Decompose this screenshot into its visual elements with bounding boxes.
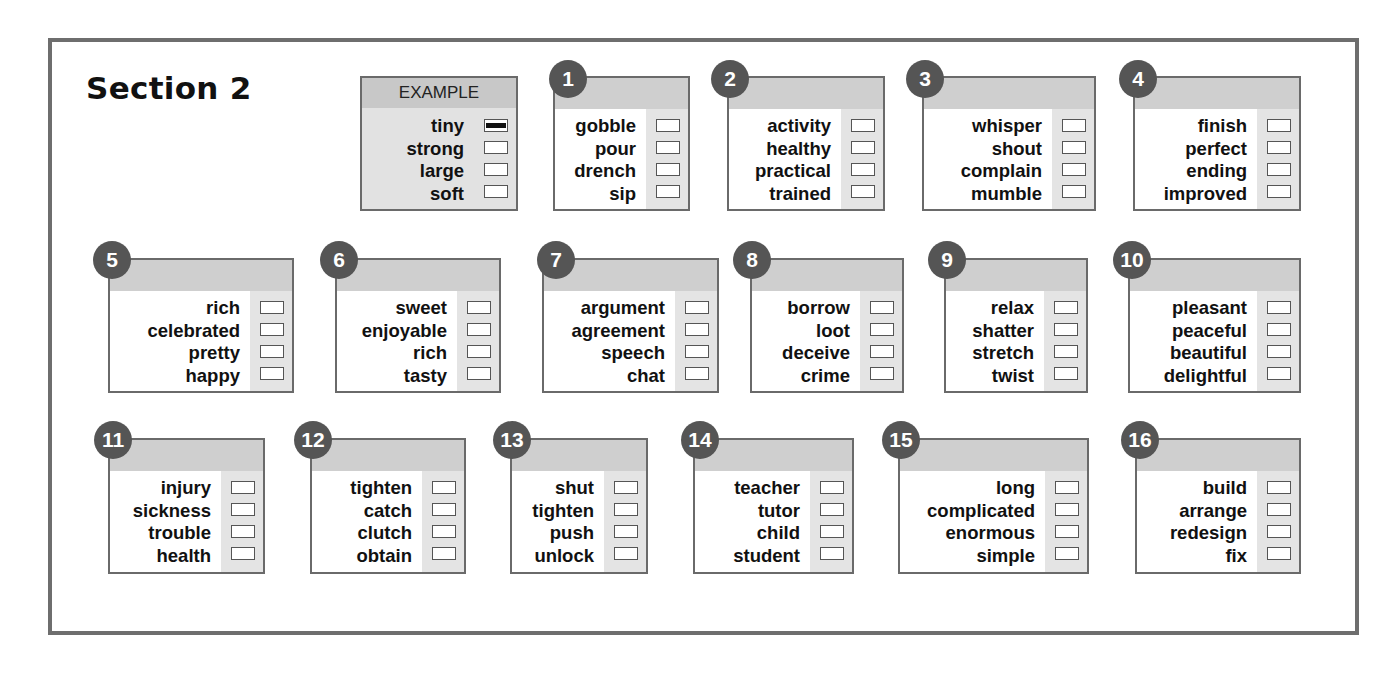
question-box: pleasantpeacefulbeautifuldelightful	[1128, 258, 1301, 393]
answer-checkbox[interactable]	[820, 525, 844, 538]
option-word: peaceful	[1164, 320, 1247, 343]
answer-checkbox[interactable]	[260, 345, 284, 358]
option-word: gobble	[574, 115, 636, 138]
option-word: build	[1170, 477, 1247, 500]
question-number-badge: 9	[928, 241, 966, 279]
answer-checkbox[interactable]	[1267, 547, 1291, 560]
answer-checkbox[interactable]	[1054, 323, 1078, 336]
answer-checkbox[interactable]	[870, 367, 894, 380]
question-number-badge: 15	[882, 421, 920, 459]
answer-checkbox[interactable]	[1267, 301, 1291, 314]
option-word: pretty	[147, 342, 240, 365]
option-word: rich	[362, 342, 447, 365]
answer-checkbox[interactable]	[614, 547, 638, 560]
question-number-badge: 13	[493, 421, 531, 459]
answer-checkbox[interactable]	[1267, 185, 1291, 198]
answer-checkbox[interactable]	[260, 323, 284, 336]
answer-checkbox[interactable]	[851, 185, 875, 198]
answer-checkbox[interactable]	[467, 367, 491, 380]
answer-checkbox[interactable]	[1267, 163, 1291, 176]
option-word: happy	[147, 365, 240, 388]
answer-checkbox[interactable]	[1267, 119, 1291, 132]
option-word: sweet	[362, 297, 447, 320]
answer-checkbox[interactable]	[656, 163, 680, 176]
answer-checkbox[interactable]	[1054, 301, 1078, 314]
answer-checkbox[interactable]	[656, 185, 680, 198]
option-word: tighten	[532, 500, 594, 523]
answer-checkbox[interactable]	[260, 367, 284, 380]
answer-checkbox[interactable]	[1054, 345, 1078, 358]
question-number-badge: 2	[711, 60, 749, 98]
answer-checkbox[interactable]	[1267, 503, 1291, 516]
answer-checkbox[interactable]	[1267, 345, 1291, 358]
question-box: teachertutorchildstudent	[693, 438, 854, 574]
option-word: mumble	[961, 183, 1042, 206]
example-checkbox	[484, 185, 508, 198]
option-word: healthy	[755, 138, 831, 161]
question-box: longcomplicatedenormoussimple	[898, 438, 1089, 574]
answer-checkbox[interactable]	[614, 525, 638, 538]
answer-checkbox[interactable]	[467, 323, 491, 336]
answer-checkbox[interactable]	[231, 503, 255, 516]
answer-checkbox[interactable]	[467, 345, 491, 358]
answer-checkbox[interactable]	[685, 323, 709, 336]
answer-checkbox[interactable]	[685, 301, 709, 314]
option-word: argument	[571, 297, 665, 320]
question-header	[337, 260, 499, 291]
example-word: tiny	[406, 115, 464, 138]
answer-checkbox[interactable]	[467, 301, 491, 314]
answer-checkbox[interactable]	[614, 481, 638, 494]
option-word: improved	[1164, 183, 1247, 206]
answer-checkbox[interactable]	[432, 503, 456, 516]
answer-checkbox[interactable]	[870, 301, 894, 314]
option-word: whisper	[961, 115, 1042, 138]
answer-checkbox[interactable]	[1062, 185, 1086, 198]
answer-checkbox[interactable]	[1062, 119, 1086, 132]
answer-checkbox[interactable]	[851, 141, 875, 154]
option-word: shatter	[972, 320, 1034, 343]
option-word: perfect	[1164, 138, 1247, 161]
answer-checkbox[interactable]	[685, 345, 709, 358]
answer-checkbox[interactable]	[656, 141, 680, 154]
answer-checkbox[interactable]	[820, 547, 844, 560]
answer-checkbox[interactable]	[870, 345, 894, 358]
answer-checkbox[interactable]	[1062, 163, 1086, 176]
example-header: EXAMPLE	[362, 78, 516, 108]
answer-checkbox[interactable]	[820, 503, 844, 516]
answer-checkbox[interactable]	[870, 323, 894, 336]
answer-checkbox[interactable]	[1267, 323, 1291, 336]
answer-checkbox[interactable]	[656, 119, 680, 132]
question-number-badge: 11	[94, 421, 132, 459]
answer-checkbox[interactable]	[820, 481, 844, 494]
answer-checkbox[interactable]	[231, 481, 255, 494]
answer-checkbox[interactable]	[685, 367, 709, 380]
answer-checkbox[interactable]	[1054, 367, 1078, 380]
answer-checkbox[interactable]	[231, 525, 255, 538]
question-header	[1135, 78, 1299, 109]
answer-checkbox[interactable]	[1267, 367, 1291, 380]
question-number-badge: 8	[733, 241, 771, 279]
option-word: sickness	[133, 500, 211, 523]
answer-checkbox[interactable]	[1062, 141, 1086, 154]
question-number-badge: 7	[537, 241, 575, 279]
answer-checkbox[interactable]	[432, 547, 456, 560]
answer-checkbox[interactable]	[432, 481, 456, 494]
answer-checkbox[interactable]	[1055, 525, 1079, 538]
answer-checkbox[interactable]	[614, 503, 638, 516]
answer-checkbox[interactable]	[851, 119, 875, 132]
option-word: pleasant	[1164, 297, 1247, 320]
answer-checkbox[interactable]	[432, 525, 456, 538]
option-word: finish	[1164, 115, 1247, 138]
answer-checkbox[interactable]	[1055, 547, 1079, 560]
answer-checkbox[interactable]	[1267, 481, 1291, 494]
question-header	[924, 78, 1094, 109]
answer-checkbox[interactable]	[231, 547, 255, 560]
option-word: twist	[972, 365, 1034, 388]
answer-checkbox[interactable]	[260, 301, 284, 314]
answer-checkbox[interactable]	[1267, 141, 1291, 154]
answer-checkbox[interactable]	[1267, 525, 1291, 538]
question-header	[512, 440, 646, 471]
answer-checkbox[interactable]	[851, 163, 875, 176]
answer-checkbox[interactable]	[1055, 481, 1079, 494]
answer-checkbox[interactable]	[1055, 503, 1079, 516]
